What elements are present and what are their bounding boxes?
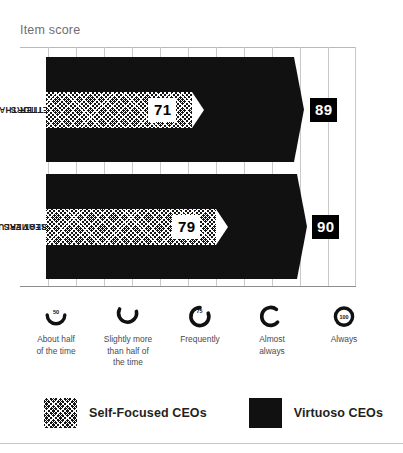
chart-title: Item score [20,23,80,37]
legend-swatch-solid [249,398,282,428]
arc-320-icon [259,303,285,331]
arc-half-icon: 50 [43,303,69,331]
legend-entry-self-focused: Self-Focused CEOs [44,398,207,428]
bar-row-better-than-competitors: BETTER THANCOMPETITORS 71 89 [20,57,356,162]
category-label-1: BETTER THANCOMPETITORS [20,57,46,162]
bar-row-great-value-for-customers: GREAT VALUEFOR CUSTOMERS 79 9 [20,174,356,279]
bar-self-focused-1-notch [192,92,204,128]
bar-virtuoso-2-arrow-tip [285,174,307,279]
arc-220-icon [115,303,141,331]
value-label-virtuoso-1: 89 [310,98,337,122]
bar-self-focused-2-notch [216,209,228,245]
circle-full-icon: 100 [331,303,357,331]
bars-group-2: 79 90 [46,174,356,279]
value-label-virtuoso-2: 90 [312,215,339,239]
legend-entry-virtuoso: Virtuoso CEOs [249,398,383,428]
scale-badge-75: 75 [196,308,202,314]
scale-label-slightly-more: Slightly more than half of the time [104,334,152,369]
category-label-2: GREAT VALUEFOR CUSTOMERS [20,174,46,279]
scale-badge-100: 100 [340,314,349,320]
bar-virtuoso-1-arrow-tip [282,57,304,162]
scale-item-frequently: 75 Frequently [164,303,236,369]
scale-badge-50: 50 [53,309,59,315]
legend-label-self-focused: Self-Focused CEOs [89,406,207,420]
axis-bottom [20,286,356,287]
scale-label-about-half: About half of the time [36,334,75,357]
scale-label-always: Always [331,334,358,346]
value-label-self-focused-2: 79 [172,215,200,239]
scale-item-about-half: 50 About half of the time [20,303,92,369]
series-legend: Self-Focused CEOs Virtuoso CEOs [44,398,383,428]
legend-label-virtuoso: Virtuoso CEOs [294,406,383,420]
scale-label-frequently: Frequently [180,334,220,346]
scale-label-almost-always: Almost always [259,334,285,357]
footer-divider [0,443,403,444]
scale-item-always: 100 Always [308,303,380,369]
scale-item-almost-always: Almost always [236,303,308,369]
scale-legend: 50 About half of the time Slightly more … [20,303,383,369]
chart-container: Item score BETTER THANCOMPETITORS [0,0,403,453]
scale-item-slightly-more: Slightly more than half of the time [92,303,164,369]
value-label-self-focused-1: 71 [148,98,176,122]
legend-swatch-crosshatch [44,398,77,428]
arc-270-icon: 75 [187,303,213,331]
plot-area: BETTER THANCOMPETITORS 71 89 [20,47,356,287]
bars-group-1: 71 89 [46,57,356,162]
